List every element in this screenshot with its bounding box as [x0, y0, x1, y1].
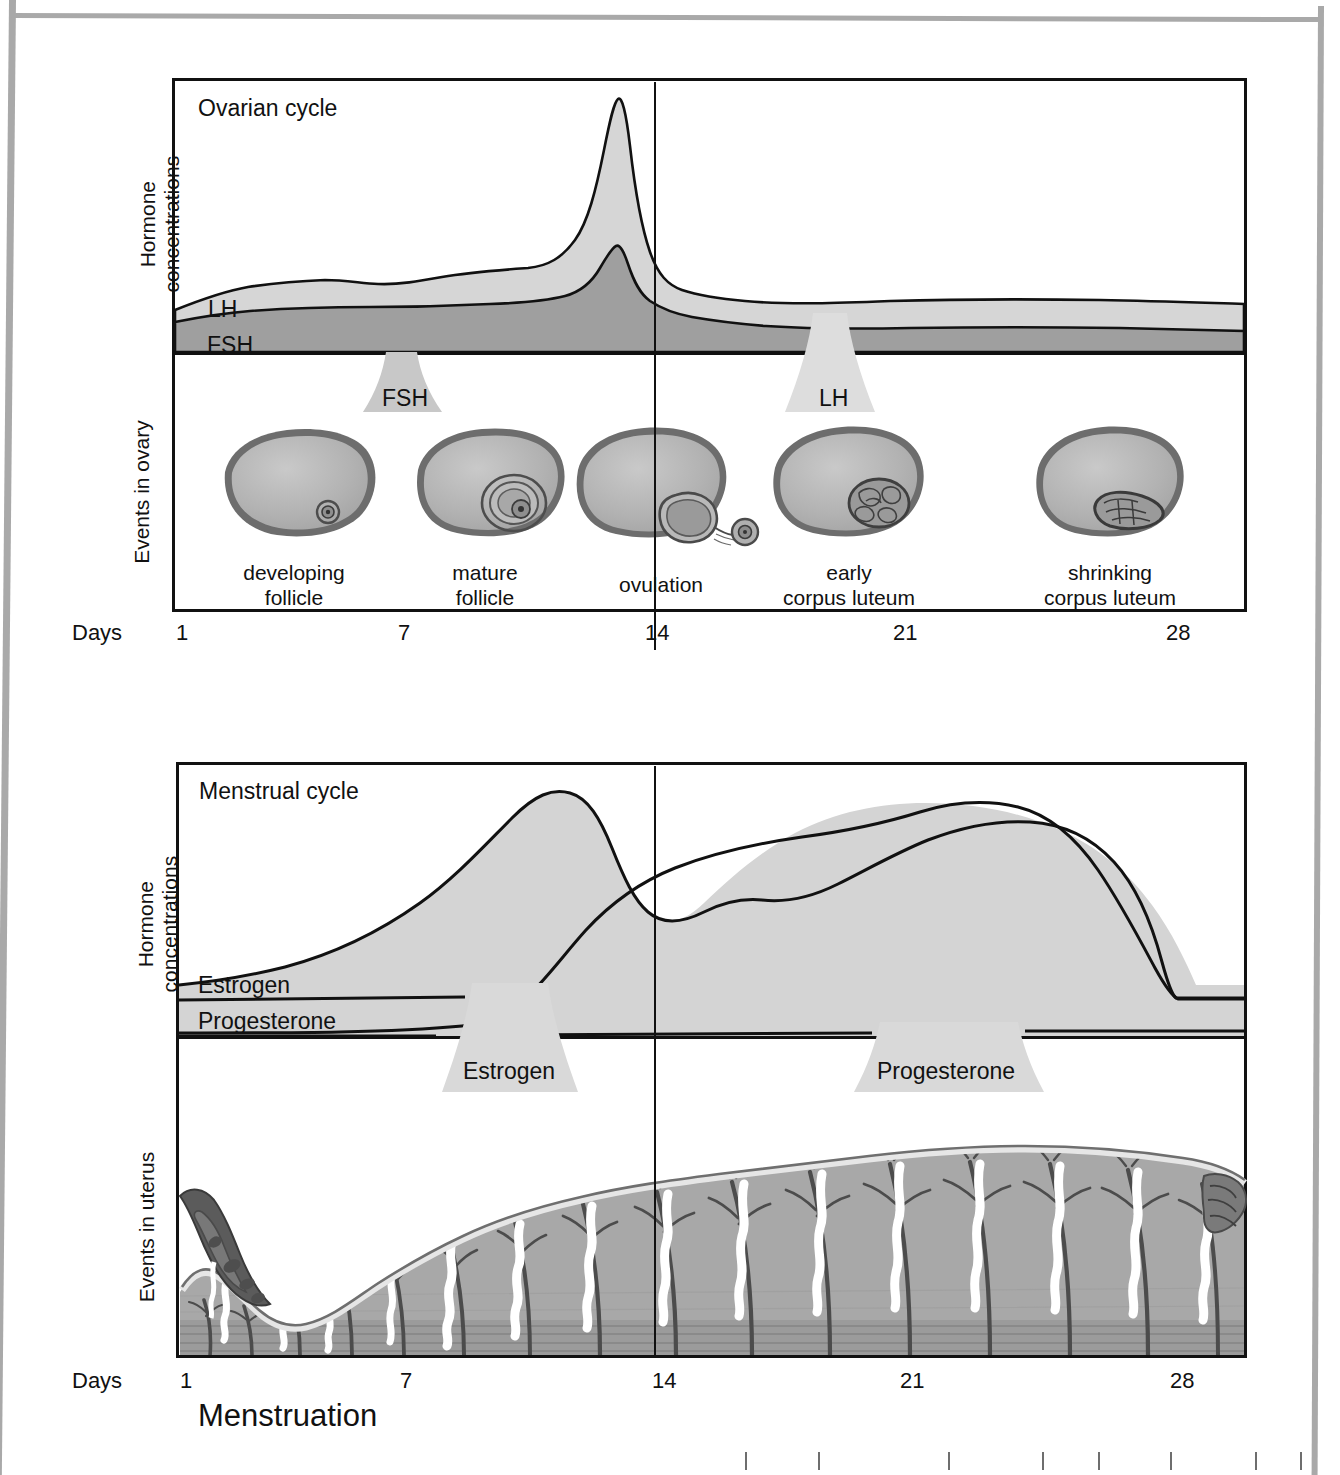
menstruation-label: Menstruation	[198, 1398, 377, 1434]
scan-artifact-tick	[818, 1452, 820, 1470]
progesterone-funnel-label: Progesterone	[877, 1058, 1015, 1085]
tick-label-bottom-7: 7	[400, 1368, 412, 1394]
days-axis-label-bottom: Days	[72, 1368, 122, 1394]
tick-label-bottom-21: 21	[900, 1368, 924, 1394]
tick-label-bottom-1: 1	[180, 1368, 192, 1394]
endometrium-illustration	[0, 0, 1340, 1475]
progesterone-band-label: Progesterone	[198, 1008, 336, 1035]
scan-artifact-tick	[1255, 1452, 1257, 1470]
ovulation-reference-line-bottom	[654, 766, 656, 1358]
scan-artifact-tick	[1042, 1452, 1044, 1470]
estrogen-funnel-label: Estrogen	[463, 1058, 555, 1085]
tick-label-bottom-14: 14	[652, 1368, 676, 1394]
lh-funnel-label: LH	[819, 385, 848, 412]
scan-artifact-tick	[745, 1452, 747, 1470]
tick-label-bottom-28: 28	[1170, 1368, 1194, 1394]
lh-band-label: LH	[208, 296, 237, 323]
scan-artifact-tick	[1170, 1452, 1172, 1470]
ovulation-reference-line-top	[654, 82, 656, 650]
scan-artifact-tick	[1300, 1452, 1302, 1470]
fsh-band-label: FSH	[207, 332, 253, 359]
scan-artifact-tick	[948, 1452, 950, 1470]
fsh-funnel-label: FSH	[382, 385, 428, 412]
figure-page: Ovarian cycle Hormone concentrations Eve…	[0, 0, 1340, 1475]
scan-artifact-tick	[1098, 1452, 1100, 1470]
estrogen-band-label: Estrogen	[198, 972, 290, 999]
